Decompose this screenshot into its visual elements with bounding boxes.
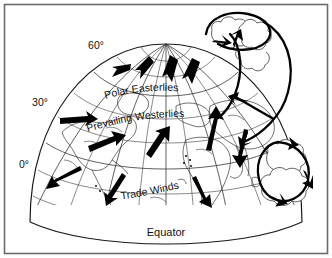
equator-label: Equator — [147, 226, 186, 238]
latitude-label-60: 60° — [88, 39, 104, 51]
latitude-label-30: 30° — [32, 96, 48, 108]
figure-root: Polar Easterlies Prevailing Westerlies T… — [0, 0, 332, 258]
wind-patterns-diagram: Polar Easterlies Prevailing Westerlies T… — [0, 0, 332, 258]
latitude-label-0: 0° — [19, 158, 29, 170]
